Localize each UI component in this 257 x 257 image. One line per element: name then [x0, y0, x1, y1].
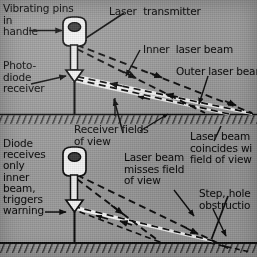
outer-laser-beam-leader — [199, 76, 208, 104]
vibrating-pins-label: Vibrating pins in handle — [3, 3, 74, 38]
laser-cane-bottom — [63, 147, 86, 244]
step-hole-obstruction-label: Step, hole obstructio — [199, 188, 251, 211]
inner-laser-beam-leader — [126, 50, 140, 76]
laser-cane-figure: Vibrating pins in handle Photo- diode re… — [0, 0, 257, 257]
laser-beam-coincides-label: Laser beam coincides wi field of view — [190, 131, 252, 166]
outer-laser-beam-label: Outer laser bear — [176, 66, 257, 78]
inner-laser-beam-label: Inner laser beam — [143, 44, 233, 56]
misses-field-leader — [174, 190, 194, 216]
laser-transmitter-label: Laser transmitter — [109, 6, 201, 18]
photodiode-receiver-label: Photo- diode receiver — [3, 60, 45, 95]
receiver-fields-of-view-label: Receiver fields of view — [74, 124, 149, 147]
laser-beam-misses-label: Laser beam misses field of view — [124, 152, 184, 187]
diode-warning-label: Diode receives only inner beam, triggers… — [3, 138, 46, 216]
